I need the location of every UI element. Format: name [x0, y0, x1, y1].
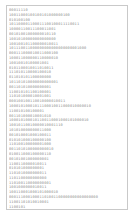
screenshot-canvas: 0001111010011000100100101000000100010100… — [0, 0, 135, 218]
document-page: 0001111010011000100100101000000100010100… — [6, 5, 128, 210]
binary-line: 1100101 — [9, 205, 127, 209]
binary-text-block: 0001111010011000100100101000000100010100… — [9, 8, 127, 209]
